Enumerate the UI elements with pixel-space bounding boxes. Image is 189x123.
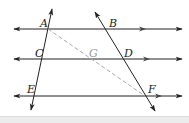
point-label-a: A [39,17,48,30]
point-label-e: E [26,83,35,96]
point-label-g: G [89,47,98,60]
point-label-f: F [147,83,156,96]
point-label-d: D [123,47,133,60]
bottom-divider-band [0,116,189,123]
point-label-b: B [108,17,117,30]
point-label-c: C [35,47,44,60]
geometry-diagram: A B C G D E F [0,0,189,116]
dashed-segment-af [48,29,145,96]
parallel-line-ef [14,94,182,99]
